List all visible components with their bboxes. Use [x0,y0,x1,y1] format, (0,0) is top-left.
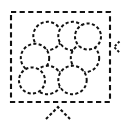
packed-circle-outer-lower-left [19,68,45,94]
diagram-svg [0,0,124,123]
packed-circle-ring-bottom-right [58,66,86,94]
circle-cluster [19,22,101,94]
chevron-up-icon [46,107,70,119]
packed-circle-outer-upper-right [75,24,101,50]
diagram-canvas [0,0,124,123]
chevron-left-icon [114,42,120,53]
